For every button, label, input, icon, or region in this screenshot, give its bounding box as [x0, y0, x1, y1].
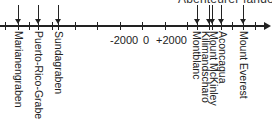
- axis-line: [0, 25, 266, 27]
- down-arrow-icon: [209, 5, 210, 20]
- down-arrow-icon: [197, 5, 198, 20]
- marker-label: Puerto-Rico-Graben: [33, 31, 44, 119]
- axis-tick-label: 0: [143, 34, 149, 46]
- marker-label: Sundagraben: [53, 31, 64, 94]
- axis-tick: [97, 22, 98, 30]
- axis-tick: [232, 22, 233, 30]
- axis-tick: [165, 22, 166, 30]
- marker-label: Marianengraben: [13, 31, 24, 107]
- down-arrow-icon: [58, 5, 59, 20]
- marker-label: Aconcagua: [217, 31, 228, 84]
- down-arrow-icon: [38, 5, 39, 20]
- axis-tick: [142, 22, 143, 30]
- down-arrow-icon: [243, 5, 244, 20]
- marker-label: Mount Everest: [238, 31, 249, 99]
- caption-text: Abenteurer fanden.: [178, 0, 272, 6]
- axis-arrowhead-icon: [264, 22, 271, 30]
- axis-tick: [120, 22, 121, 30]
- axis-tick: [5, 22, 6, 30]
- axis-tick: [52, 22, 53, 30]
- axis-tick: [187, 22, 188, 30]
- axis-tick: [255, 22, 256, 30]
- axis-tick-label: +2000: [156, 34, 187, 46]
- axis-tick: [75, 22, 76, 30]
- axis-tick: [29, 22, 30, 30]
- down-arrow-icon: [18, 5, 19, 20]
- axis-tick-label: -2000: [110, 34, 138, 46]
- down-arrow-icon: [212, 5, 213, 20]
- down-arrow-icon: [221, 5, 222, 20]
